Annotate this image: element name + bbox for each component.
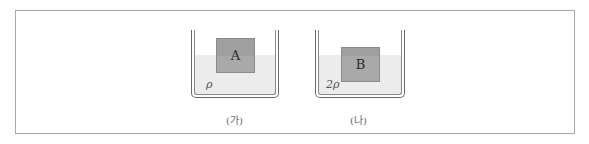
caption-na: (나)	[350, 112, 367, 127]
block-b: B	[341, 47, 380, 82]
figure-frame	[15, 10, 575, 134]
density-label-na: 2ρ	[326, 78, 339, 91]
block-a: A	[216, 38, 255, 73]
block-a-label: A	[231, 48, 240, 63]
block-b-label: B	[356, 57, 366, 72]
density-label-ga: ρ	[206, 78, 212, 91]
caption-ga: (가)	[226, 112, 243, 127]
